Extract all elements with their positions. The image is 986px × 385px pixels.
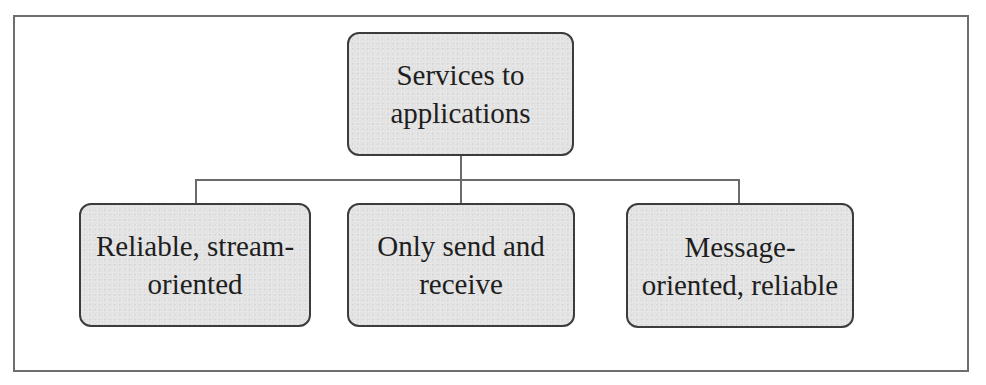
- node-label: Only send and receive: [377, 227, 545, 303]
- node-only-send-and-receive: Only send and receive: [347, 203, 575, 327]
- node-label: Message- oriented, reliable: [642, 228, 838, 304]
- node-reliable-stream-oriented: Reliable, stream- oriented: [79, 203, 311, 327]
- node-services-to-applications: Services to applications: [347, 32, 574, 156]
- node-message-oriented-reliable: Message- oriented, reliable: [626, 203, 854, 328]
- connector-root-down: [460, 155, 462, 180]
- connector-to-right-child: [738, 179, 740, 204]
- connector-horizontal: [195, 179, 740, 181]
- connector-to-left-child: [195, 179, 197, 204]
- node-label: Services to applications: [390, 56, 530, 132]
- node-label: Reliable, stream- oriented: [96, 227, 294, 303]
- connector-to-middle-child: [460, 179, 462, 204]
